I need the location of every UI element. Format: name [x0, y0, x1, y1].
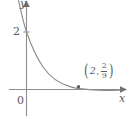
y-axis-label: y	[20, 0, 26, 9]
point-marker-2-2over9	[77, 85, 80, 88]
point-coordinate-label: ( 2 , 2 9 )	[83, 62, 114, 80]
fraction-numerator: 2	[102, 62, 107, 71]
fraction-denominator: 9	[102, 72, 107, 81]
x-axis-label: x	[119, 93, 125, 104]
y-axis-tick-label-2: 2	[13, 26, 20, 37]
exponential-decay-graph-figure: y x 0 2 ( 2 , 2 9 )	[0, 0, 129, 119]
origin-label: 0	[17, 95, 24, 106]
label-open-paren: (	[84, 64, 89, 78]
label-fraction: 2 9	[101, 62, 108, 80]
label-x-value: 2	[89, 66, 96, 76]
label-close-paren: )	[109, 64, 114, 78]
